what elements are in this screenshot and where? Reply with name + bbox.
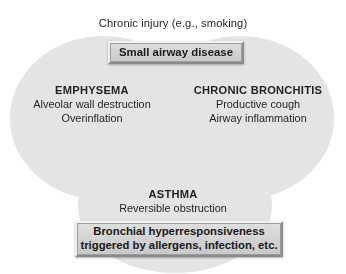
emphysema-title: EMPHYSEMA [12, 84, 172, 98]
emphysema-label-group: EMPHYSEMA Alveolar wall destruction Over… [12, 84, 172, 126]
bronchial-line-1: Bronchial hyperresponsiveness [93, 225, 264, 239]
emphysema-line-2: Overinflation [12, 112, 172, 126]
chronic-bronchitis-line-2: Airway inflammation [176, 112, 340, 126]
bronchial-hyperresponsiveness-box-inner: Bronchial hyperresponsiveness triggered … [77, 223, 281, 255]
bronchial-hyperresponsiveness-box: Bronchial hyperresponsiveness triggered … [75, 221, 283, 257]
chronic-bronchitis-title: CHRONIC BRONCHITIS [176, 84, 340, 98]
chronic-bronchitis-label-group: CHRONIC BRONCHITIS Productive cough Airw… [176, 84, 340, 126]
small-airway-disease-box-inner: Small airway disease [110, 43, 242, 62]
copd-venn-diagram: Chronic injury (e.g., smoking) Small air… [0, 0, 346, 274]
asthma-label-group: ASTHMA Reversible obstruction [93, 188, 253, 216]
small-airway-disease-label: Small airway disease [119, 46, 233, 60]
chronic-bronchitis-line-1: Productive cough [176, 98, 340, 112]
labels-layer: Chronic injury (e.g., smoking) Small air… [0, 0, 346, 274]
asthma-title: ASTHMA [93, 188, 253, 202]
small-airway-disease-box: Small airway disease [108, 41, 244, 64]
chronic-injury-caption: Chronic injury (e.g., smoking) [0, 17, 346, 30]
bronchial-line-2: triggered by allergens, infection, etc. [80, 239, 277, 253]
emphysema-line-1: Alveolar wall destruction [12, 98, 172, 112]
asthma-line-1: Reversible obstruction [93, 202, 253, 216]
